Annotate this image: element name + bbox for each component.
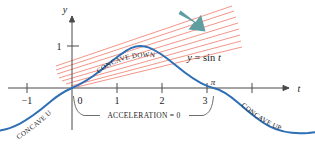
tangent-line xyxy=(57,17,236,74)
acceleration-label: ACCELERATION = 0 xyxy=(107,111,180,120)
y-axis-label: y xyxy=(62,4,68,15)
tangent-line-fan xyxy=(56,6,242,87)
sine-concavity-figure: y t 1 −1 0 1 2 3 π y = sin t y = sin t C… xyxy=(0,0,315,150)
x-tick-label-2: 2 xyxy=(160,95,165,106)
y-tick-label-1: 1 xyxy=(57,41,62,52)
figure-svg: y t 1 −1 0 1 2 3 π y = sin t y = sin t C… xyxy=(0,0,315,150)
x-axis-arrowhead xyxy=(283,85,289,90)
x-axis-label: t xyxy=(298,83,301,94)
concave-up-right-label: CONCAVE UP xyxy=(240,101,283,132)
pi-label: π xyxy=(211,77,216,87)
y-axis-arrowhead xyxy=(69,16,74,22)
bracket-right-elbow xyxy=(189,96,214,116)
x-tick-label-minus-1: −1 xyxy=(22,95,33,106)
x-tick-label-0: 0 xyxy=(78,95,83,106)
x-tick-label-1: 1 xyxy=(115,95,120,106)
x-tick-label-3: 3 xyxy=(203,95,208,106)
